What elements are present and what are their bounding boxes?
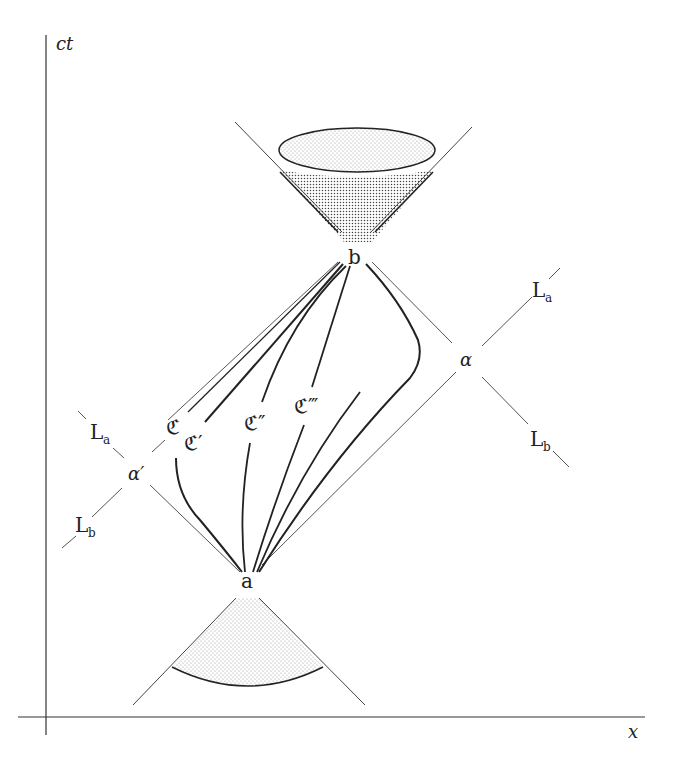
alpha-prime-label: α′ xyxy=(128,463,144,484)
svg-text:b: b xyxy=(88,526,96,540)
worldline-C-prime-upper xyxy=(205,264,343,422)
Lb-line-tail xyxy=(553,451,569,467)
La-prime-line-lower xyxy=(150,485,240,572)
worldline-C-triple-prime-lower xyxy=(253,425,304,572)
alpha-label: α xyxy=(460,349,472,370)
worldline-C-prime-lower xyxy=(176,458,242,572)
event-a-label: a xyxy=(241,569,253,593)
curve-C-triple-prime-label: ℭ‴ xyxy=(294,394,318,418)
svg-text:a: a xyxy=(545,291,552,305)
worldline-rightmost xyxy=(259,264,420,572)
upper-cone-ellipse xyxy=(279,128,435,172)
event-b-label: b xyxy=(348,245,361,269)
ct-axis-label: ct xyxy=(56,33,74,54)
svg-text:L: L xyxy=(530,427,543,451)
worldline-C xyxy=(188,262,340,412)
upper-cone-fill-inner xyxy=(280,170,433,242)
curve-C-double-prime-label: ℭ″ xyxy=(244,411,265,435)
Lb-line-lower xyxy=(482,377,528,424)
x-axis-label: x xyxy=(628,721,638,742)
La-right-label: L a xyxy=(532,278,552,305)
svg-text:L: L xyxy=(532,278,545,302)
worldline-right-diagonal xyxy=(257,392,360,572)
svg-text:L: L xyxy=(75,513,88,537)
spacetime-diagram: ct x xyxy=(0,0,674,772)
lower-cone-fill xyxy=(172,598,323,686)
upper-light-cone xyxy=(235,122,472,242)
La-line-lower xyxy=(262,372,456,565)
Lb-left-tail xyxy=(62,536,76,548)
La-prime-line-mid xyxy=(152,440,165,452)
Lb-right-label: L b xyxy=(530,427,551,454)
La-line-upper xyxy=(482,297,532,346)
La-left-tail xyxy=(78,411,86,419)
La-left-label: L a xyxy=(90,420,110,447)
Lb-line-upper xyxy=(372,262,452,343)
lower-light-cone xyxy=(133,598,365,705)
curve-C-prime-label: ℭ′ xyxy=(184,431,203,455)
La-left-segment xyxy=(113,448,124,458)
La-line-tail xyxy=(549,268,560,279)
worldline-C-double-prime-upper xyxy=(262,266,346,402)
Lb-left-segment xyxy=(92,488,122,517)
worldline-C-double-prime-lower xyxy=(242,443,250,572)
svg-text:a: a xyxy=(103,433,110,447)
curve-C-label: ℭ xyxy=(166,415,180,439)
svg-text:L: L xyxy=(90,420,103,444)
svg-text:b: b xyxy=(543,440,551,454)
Lb-left-label: L b xyxy=(75,513,96,540)
